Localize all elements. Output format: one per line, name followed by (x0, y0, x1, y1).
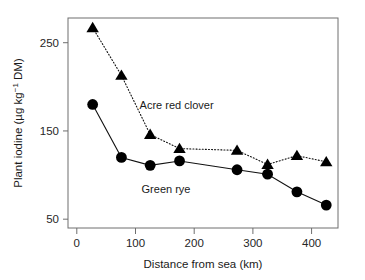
x-tick-label: 200 (185, 237, 204, 249)
x-tick-label: 0 (74, 237, 80, 249)
y-tick-label: 50 (46, 213, 59, 225)
y-axis-title-tail: DM) (12, 58, 24, 83)
y-axis-title-main: Plant iodine (µg kg (12, 92, 24, 188)
data-point-green-rye (174, 156, 185, 167)
data-point-green-rye (232, 164, 243, 175)
annotation-green-rye: Green rye (142, 183, 191, 195)
data-point-green-rye (116, 152, 127, 163)
x-axis-title: Distance from sea (km) (144, 258, 263, 270)
svg-text:Plant iodine (µg kg−1 DM): Plant iodine (µg kg−1 DM) (11, 58, 24, 188)
chart-figure: 50150250 0100200300400 Acre red cloverGr… (0, 0, 365, 280)
x-tick-label: 100 (126, 237, 145, 249)
y-axis-title: Plant iodine (µg kg−1 DM) (11, 58, 24, 188)
annotation-acre-red-clover: Acre red clover (140, 99, 214, 111)
y-tick-label: 250 (40, 37, 59, 49)
x-tick-label: 400 (302, 237, 321, 249)
data-point-green-rye (262, 169, 273, 180)
y-tick-label: 150 (40, 125, 59, 137)
data-point-green-rye (145, 160, 156, 171)
data-point-green-rye (292, 186, 303, 197)
data-point-green-rye (321, 200, 332, 211)
plot-canvas: 50150250 0100200300400 Acre red cloverGr… (0, 0, 365, 280)
x-tick-label: 300 (243, 237, 262, 249)
data-point-green-rye (87, 99, 98, 110)
